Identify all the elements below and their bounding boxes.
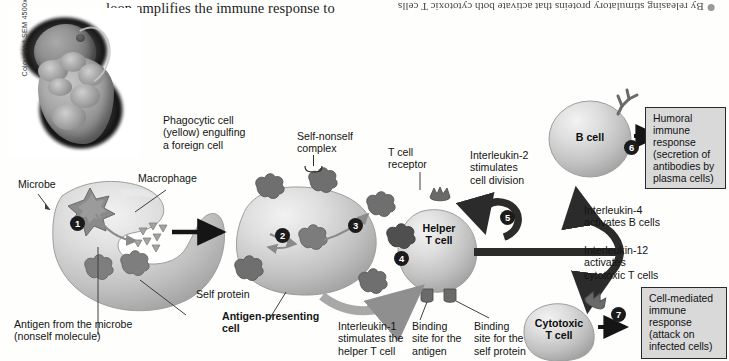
cell-label-helper-t-cell: Helper T cell	[410, 222, 468, 246]
cell-label-b-cell: B cell	[566, 131, 614, 143]
outcome-box-humoral: Humoral immune response (secretion of an…	[645, 107, 726, 189]
label-interleukin-1: Interleukin-1 stimulates the helper T ce…	[338, 320, 403, 357]
interleukin-1-arrow	[322, 290, 418, 311]
leader-binding-site-self-protein	[456, 301, 489, 318]
step-marker-3: 3	[348, 218, 363, 233]
immune-response-diagram: loop amplifies the immune response to By…	[0, 0, 729, 361]
label-microbe: Microbe	[18, 178, 56, 190]
cell-label-cytotoxic-t-cell: Cytotoxic T cell	[526, 317, 592, 341]
b-cell-antibody-receptor	[618, 90, 637, 114]
step-marker-6: 6	[624, 140, 639, 155]
label-t-cell-receptor: T cell receptor	[388, 146, 427, 171]
step-marker-4: 4	[394, 251, 409, 266]
label-self-protein: Self protein	[196, 288, 250, 300]
label-interleukin-2: Interleukin-2 stimulates cell division	[470, 149, 528, 186]
label-binding-site-antigen: Binding site for the antigen	[412, 320, 461, 357]
leader-binding-site-antigen	[420, 302, 427, 320]
helper-t-cell-receptor-top	[430, 187, 450, 201]
label-self-nonself-complex: Self-nonself complex	[297, 130, 353, 155]
step-marker-1: 1	[70, 216, 85, 231]
step-marker-5: 5	[500, 210, 515, 225]
binding-site-self-protein-shape	[444, 289, 456, 302]
step-marker-7: 7	[611, 307, 626, 322]
label-antigen-presenting-cell: Antigen-presenting cell	[222, 310, 319, 335]
label-interleukin-12: Interleukin-12 activates cytotoxic T cel…	[584, 244, 658, 281]
label-antigen-from-microbe: Antigen from the microbe (nonself molecu…	[14, 318, 132, 343]
label-binding-site-self-protein: Binding site for the self protein	[474, 320, 526, 357]
binding-site-antigen-shape	[421, 289, 433, 302]
step-marker-2: 2	[275, 228, 290, 243]
label-interleukin-4: Interleukin-4 activates B cells	[584, 204, 660, 229]
outcome-box-cell-mediated: Cell-mediated immune response (attack on…	[641, 287, 727, 359]
label-macrophage: Macrophage	[138, 172, 197, 184]
